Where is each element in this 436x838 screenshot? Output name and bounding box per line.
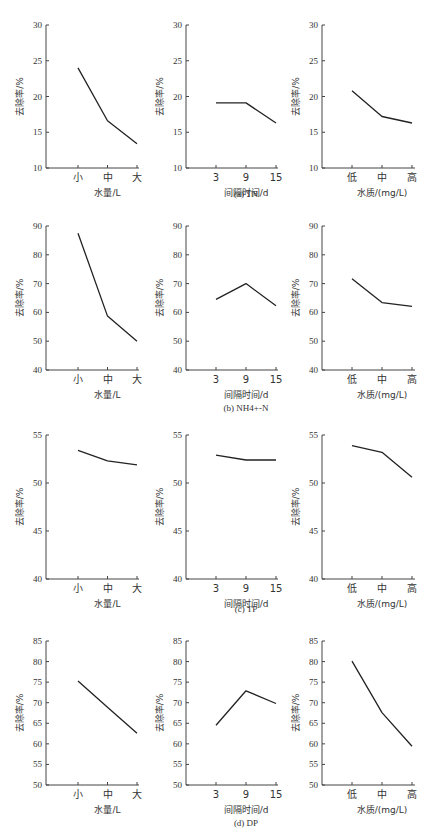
y-tick-label: 15 <box>309 127 319 137</box>
y-tick-label: 40 <box>309 574 319 584</box>
data-line <box>216 691 276 726</box>
x-tick-label: 高 <box>407 582 417 594</box>
y-tick-label: 20 <box>173 92 183 102</box>
x-tick-label: 中 <box>103 582 113 594</box>
x-tick-label: 大 <box>132 582 142 594</box>
y-tick-label: 50 <box>309 780 319 790</box>
x-tick-label: 低 <box>347 582 357 594</box>
x-tick-label: 15 <box>270 789 283 800</box>
y-tick-label: 70 <box>309 698 319 708</box>
y-tick-label: 70 <box>33 698 43 708</box>
y-tick-label: 80 <box>173 657 183 667</box>
x-tick-label: 15 <box>270 374 283 385</box>
y-tick-label: 50 <box>33 478 43 488</box>
y-tick-label: 80 <box>33 657 43 667</box>
y-tick-label: 50 <box>309 336 319 346</box>
y-tick-label: 80 <box>309 657 319 667</box>
y-tick-label: 30 <box>173 20 183 30</box>
y-tick-label: 70 <box>309 279 319 289</box>
y-tick-label: 50 <box>309 478 319 488</box>
y-tick-label: 10 <box>309 163 319 173</box>
y-tick-label: 55 <box>33 430 43 440</box>
y-tick-label: 75 <box>33 677 43 687</box>
y-tick-label: 65 <box>309 718 319 728</box>
data-line <box>216 103 276 123</box>
y-tick-label: 90 <box>173 221 183 231</box>
y-tick-label: 55 <box>33 759 43 769</box>
y-tick-label: 15 <box>33 127 43 137</box>
y-tick-label: 55 <box>309 430 319 440</box>
y-tick-label: 40 <box>33 365 43 375</box>
x-axis-title: 水质/(mg/L) <box>357 804 408 815</box>
x-tick-label: 3 <box>213 374 219 385</box>
y-tick-label: 60 <box>33 739 43 749</box>
chart-panel-7: 404550553915间隔时间/d去除率/% <box>154 430 282 609</box>
y-tick-label: 25 <box>33 56 43 66</box>
chart-panel-0: 1015202530小中大水量/L去除率/% <box>14 20 142 198</box>
y-axis-title: 去除率/% <box>154 487 165 526</box>
y-axis-title: 去除率/% <box>14 278 25 317</box>
y-tick-label: 60 <box>309 307 319 317</box>
chart-panel-8: 40455055低中高水质/(mg/L)去除率/% <box>290 430 417 609</box>
x-tick-label: 小 <box>73 172 83 183</box>
y-axis-title: 去除率/% <box>154 77 165 116</box>
x-tick-label: 9 <box>243 374 249 385</box>
x-axis-title: 水质/(mg/L) <box>357 187 408 198</box>
y-axis-title: 去除率/% <box>154 278 165 317</box>
chart-panel-6: 40455055小中大水量/L去除率/% <box>14 430 142 609</box>
x-tick-label: 大 <box>132 171 142 183</box>
x-tick-label: 小 <box>73 374 83 385</box>
y-tick-label: 65 <box>173 718 183 728</box>
y-axis-title: 去除率/% <box>290 278 301 317</box>
y-tick-label: 70 <box>173 698 183 708</box>
x-tick-label: 3 <box>213 789 219 800</box>
y-tick-label: 60 <box>309 739 319 749</box>
row-caption: (a) TN <box>234 189 259 199</box>
y-tick-label: 45 <box>309 526 319 536</box>
x-axis-title: 间隔时间/d <box>224 804 269 815</box>
y-tick-label: 45 <box>33 526 43 536</box>
x-tick-label: 中 <box>103 171 113 183</box>
y-axis-title: 去除率/% <box>14 487 25 526</box>
chart-panel-10: 50556065707580853915间隔时间/d去除率/% <box>154 636 282 815</box>
y-tick-label: 80 <box>173 250 183 260</box>
y-axis-title: 去除率/% <box>290 77 301 116</box>
y-tick-label: 60 <box>173 307 183 317</box>
x-tick-label: 小 <box>73 789 83 800</box>
y-axis-title: 去除率/% <box>290 487 301 526</box>
x-tick-label: 高 <box>407 373 417 385</box>
y-tick-label: 65 <box>33 718 43 728</box>
x-axis-title: 水量/L <box>94 389 120 400</box>
y-tick-label: 85 <box>33 636 43 646</box>
y-tick-label: 25 <box>309 56 319 66</box>
y-tick-label: 30 <box>33 20 43 30</box>
x-axis-title: 水量/L <box>94 804 120 815</box>
x-tick-label: 中 <box>377 788 387 800</box>
y-tick-label: 75 <box>173 677 183 687</box>
chart-panel-3: 405060708090小中大水量/L去除率/% <box>14 221 142 400</box>
row-caption: (b) NH4+-N <box>224 403 269 413</box>
x-tick-label: 中 <box>103 788 113 800</box>
y-tick-label: 15 <box>173 127 183 137</box>
y-tick-label: 50 <box>173 780 183 790</box>
x-tick-label: 中 <box>377 582 387 594</box>
data-line <box>78 450 137 464</box>
data-line <box>216 455 276 460</box>
data-line <box>352 446 412 478</box>
data-line <box>352 91 412 123</box>
y-tick-label: 60 <box>173 739 183 749</box>
row-caption: (d) DP <box>234 818 258 828</box>
data-line <box>78 681 137 733</box>
figure-grid: 1015202530小中大水量/L去除率/%10152025303915间隔时间… <box>0 0 436 838</box>
x-tick-label: 3 <box>213 583 219 594</box>
y-tick-label: 40 <box>33 574 43 584</box>
x-tick-label: 中 <box>377 171 387 183</box>
x-tick-label: 15 <box>270 172 283 183</box>
x-tick-label: 低 <box>347 373 357 385</box>
y-tick-label: 50 <box>173 478 183 488</box>
chart-panel-11: 5055606570758085低中高水质/(mg/L)去除率/% <box>290 636 417 815</box>
chart-panel-9: 5055606570758085小中大水量/L去除率/% <box>14 636 142 815</box>
x-axis-title: 水量/L <box>94 187 120 198</box>
x-tick-label: 9 <box>243 172 249 183</box>
y-tick-label: 50 <box>173 336 183 346</box>
